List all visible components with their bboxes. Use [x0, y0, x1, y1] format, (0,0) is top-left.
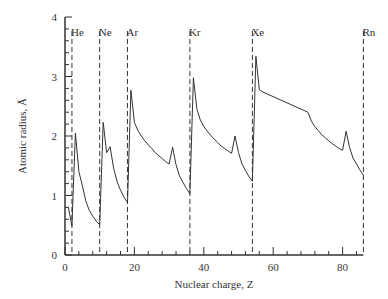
- x-tick-label: 20: [129, 261, 141, 273]
- y-tick-label: 4: [52, 11, 58, 23]
- y-tick-label: 1: [52, 190, 58, 202]
- noble-gas-label: He: [71, 26, 84, 38]
- x-tick-label: 80: [337, 261, 349, 273]
- axes: 01234020406080: [52, 11, 364, 273]
- noble-gas-lines: HeNeArKrXeRn: [71, 26, 376, 255]
- noble-gas-label: Kr: [189, 26, 201, 38]
- x-tick-label: 40: [198, 261, 210, 273]
- noble-gas-label: Ne: [99, 26, 112, 38]
- data-line: [69, 56, 364, 226]
- noble-gas-label: Rn: [362, 26, 375, 38]
- noble-gas-label: Ar: [126, 26, 138, 38]
- x-axis-title: Nuclear charge, Z: [175, 278, 254, 290]
- y-tick-label: 0: [52, 249, 58, 261]
- y-tick-label: 2: [52, 130, 58, 142]
- y-tick-label: 3: [52, 71, 58, 83]
- y-axis-title: Atomic radius, Å: [16, 98, 28, 174]
- atomic-radius-chart: HeNeArKrXeRn 01234020406080 Nuclear char…: [0, 0, 388, 299]
- x-tick-label: 0: [62, 261, 68, 273]
- x-tick-label: 60: [268, 261, 280, 273]
- noble-gas-label: Xe: [251, 26, 264, 38]
